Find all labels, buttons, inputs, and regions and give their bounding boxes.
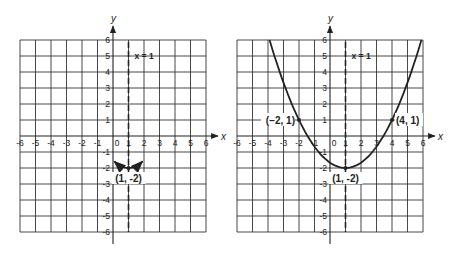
graphs-canvas: xy-6-5-4-3-2-10123456654321-1-2-3-4-5-6x…	[0, 0, 456, 260]
right-graph: xy-6-5-4-3-2-10123456654321-1-2-3-4-5-6x…	[233, 13, 444, 244]
vertex-point	[127, 166, 131, 170]
y-tick-label: -5	[102, 211, 110, 221]
x-tick-label: -6	[233, 138, 241, 148]
y-tick-label: 4	[105, 67, 110, 77]
axis-of-symmetry-label: x = 1	[135, 51, 154, 61]
x-tick-label: 6	[204, 138, 209, 148]
x-tick-label: 0	[115, 138, 120, 148]
point-left-label: (−2, 1)	[266, 115, 295, 126]
x-tick-label: 5	[405, 138, 410, 148]
x-tick-label: -4	[264, 138, 272, 148]
vertex-label: (1, -2)	[115, 173, 142, 184]
left-graph: xy-6-5-4-3-2-10123456654321-1-2-3-4-5-6x…	[16, 13, 227, 244]
x-tick-label: 3	[157, 138, 162, 148]
y-tick-label: -3	[102, 179, 110, 189]
y-tick-label: -2	[102, 163, 110, 173]
x-tick-label: -3	[280, 138, 288, 148]
x-tick-label: -1	[94, 138, 102, 148]
y-tick-label: -4	[319, 195, 327, 205]
y-tick-label: 4	[322, 67, 327, 77]
x-tick-label: 2	[359, 138, 364, 148]
y-tick-label: -3	[319, 179, 327, 189]
x-tick-label: -5	[249, 138, 257, 148]
x-tick-label: -2	[295, 138, 303, 148]
y-tick-label: 2	[322, 99, 327, 109]
y-tick-label: 3	[322, 83, 327, 93]
y-tick-label: 6	[322, 35, 327, 45]
x-tick-label: -5	[32, 138, 40, 148]
y-tick-label: 1	[105, 115, 110, 125]
y-tick-label: 3	[105, 83, 110, 93]
y-axis-label: y	[327, 13, 334, 24]
x-tick-label: 2	[142, 138, 147, 148]
point-right	[390, 118, 394, 122]
vertex-label: (1, -2)	[332, 173, 359, 184]
axis-of-symmetry-label: x = 1	[352, 51, 371, 61]
y-tick-label: 5	[322, 51, 327, 61]
x-tick-label: 6	[421, 138, 426, 148]
x-tick-label: 5	[188, 138, 193, 148]
x-tick-label: -3	[63, 138, 71, 148]
y-tick-label: -6	[319, 227, 327, 237]
x-tick-label: -4	[47, 138, 55, 148]
y-tick-label: 5	[105, 51, 110, 61]
x-tick-label: 4	[390, 138, 395, 148]
y-tick-label: 6	[105, 35, 110, 45]
y-axis-label: y	[110, 13, 117, 24]
y-tick-label: -4	[102, 195, 110, 205]
y-tick-label: -1	[102, 147, 110, 157]
y-tick-label: -6	[102, 227, 110, 237]
x-axis-label: x	[437, 131, 444, 142]
x-tick-label: -6	[16, 138, 24, 148]
x-tick-label: -2	[78, 138, 86, 148]
y-tick-label: 1	[322, 115, 327, 125]
x-tick-label: 0	[332, 138, 337, 148]
point-right-label: (4, 1)	[396, 115, 419, 126]
y-tick-label: -2	[319, 163, 327, 173]
y-tick-label: -5	[319, 211, 327, 221]
point-left	[297, 118, 301, 122]
x-tick-label: 4	[173, 138, 178, 148]
x-axis-label: x	[220, 131, 227, 142]
y-tick-label: 2	[105, 99, 110, 109]
vertex-point	[344, 166, 348, 170]
